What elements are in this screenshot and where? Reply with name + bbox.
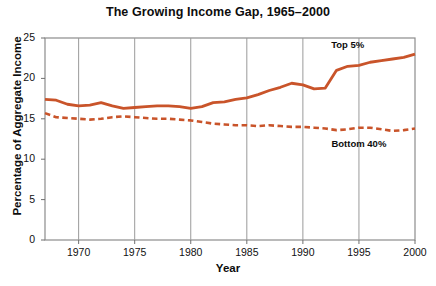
series-annotation: Bottom 40% <box>331 138 386 149</box>
income-gap-line-chart: The Growing Income Gap, 1965–2000 Percen… <box>0 0 436 286</box>
x-tick-label: 1980 <box>171 246 211 258</box>
x-tick-label: 1985 <box>227 246 267 258</box>
y-tick-label: 25 <box>7 31 35 43</box>
series-line-bottom-40 <box>45 113 415 131</box>
series-line-top-5 <box>45 54 415 108</box>
y-tick-label: 0 <box>7 233 35 245</box>
y-tick-label: 5 <box>7 193 35 205</box>
x-tick-label: 1975 <box>115 246 155 258</box>
y-tick-label: 20 <box>7 71 35 83</box>
series-annotation: Top 5% <box>331 39 364 50</box>
y-tick-label: 15 <box>7 112 35 124</box>
x-tick-label: 1995 <box>339 246 379 258</box>
x-tick-label: 2000 <box>395 246 435 258</box>
x-tick-label: 1970 <box>59 246 99 258</box>
y-tick-label: 10 <box>7 152 35 164</box>
x-tick-label: 1990 <box>283 246 323 258</box>
